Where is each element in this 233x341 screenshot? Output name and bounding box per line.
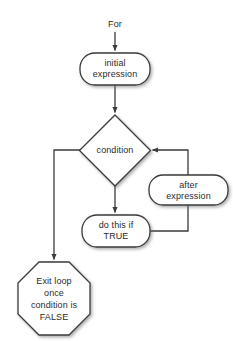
node-after-expression[interactable] xyxy=(149,175,228,205)
node-initial-expression[interactable] xyxy=(80,53,150,85)
flowchart-canvas xyxy=(0,0,233,341)
node-exit-loop[interactable] xyxy=(18,262,90,335)
node-body-do-this-if-true[interactable] xyxy=(82,215,150,247)
edge-condition-to-exit xyxy=(54,150,80,260)
node-condition[interactable] xyxy=(80,115,151,186)
